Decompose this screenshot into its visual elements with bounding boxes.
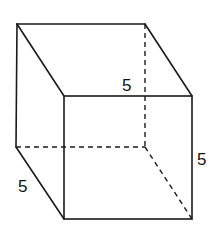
hidden-edge-depth	[145, 147, 192, 219]
label-depth-edge: 5	[18, 177, 27, 196]
front-face	[64, 96, 192, 219]
label-right-edge: 5	[197, 150, 206, 169]
label-top-edge: 5	[122, 76, 131, 95]
edge-top-left-depth	[17, 24, 64, 96]
edge-top-right-depth	[145, 24, 192, 96]
edge-back-left	[16, 24, 17, 147]
cube-diagram: 5 5 5	[0, 0, 214, 230]
